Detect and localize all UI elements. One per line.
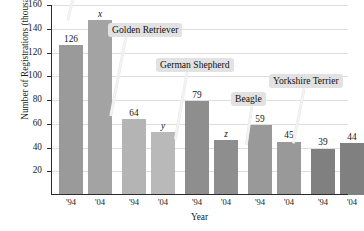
- bar-group3-04: z '04: [214, 140, 238, 195]
- y-axis-title: Number of Registrations (thousands): [20, 0, 30, 136]
- y-tick-60: 60: [47, 124, 51, 125]
- y-tick-20: 20: [47, 171, 51, 172]
- y-tick-label-20: 20: [33, 167, 42, 176]
- y-tick-80: 80: [47, 100, 51, 101]
- y-tick-40: 40: [47, 148, 51, 149]
- x-tick-label-6: '04: [221, 198, 231, 207]
- leader-line-yorkshire-terrier: [293, 89, 306, 143]
- callout-golden-retriever: Golden Retriever: [108, 23, 182, 37]
- x-tick-label-4: '04: [158, 198, 168, 207]
- bar-group1-94: 126 '94: [59, 45, 83, 195]
- x-tick-label-2: '04: [95, 198, 105, 207]
- leader-line-labrador: [67, 0, 77, 20]
- y-tick-140: 140: [47, 29, 51, 30]
- x-tick-label-1: '94: [66, 198, 76, 207]
- bar-value-39: 39: [318, 138, 327, 147]
- callout-german-shepherd: German Shepherd: [156, 58, 234, 72]
- x-axis-line: [51, 194, 348, 195]
- bar-value-64: 64: [129, 109, 138, 118]
- bar-value-x: x: [98, 10, 102, 19]
- bar-value-z: z: [224, 130, 228, 139]
- x-tick-label-3: '94: [129, 198, 139, 207]
- gridline-160: [51, 5, 348, 6]
- bar-group1-04: x '04: [88, 20, 112, 195]
- bar-value-59: 59: [255, 115, 264, 124]
- y-tick-label-100: 100: [28, 72, 42, 81]
- y-tick-label-40: 40: [33, 143, 42, 152]
- x-tick-label-5: '94: [192, 198, 202, 207]
- y-tick-label-120: 120: [28, 48, 42, 57]
- x-tick-label-8: '04: [284, 198, 294, 207]
- x-tick-label-7: '94: [255, 198, 265, 207]
- callout-yorkshire-terrier: Yorkshire Terrier: [269, 74, 343, 88]
- x-tick-label-10: '04: [347, 198, 357, 207]
- bar-group3-94: 79 '94: [185, 101, 209, 195]
- bar-group4-04: 45 '04: [277, 142, 301, 195]
- bar-group5-94: 39 '94: [311, 149, 335, 195]
- y-tick-label-160: 160: [28, 0, 42, 9]
- y-tick-label-60: 60: [33, 119, 42, 128]
- bar-value-44: 44: [347, 133, 356, 142]
- bar-group4-94: 59 '94: [248, 125, 272, 195]
- callout-beagle: Beagle: [231, 92, 266, 106]
- y-tick-120: 120: [47, 53, 51, 54]
- bar-value-79: 79: [192, 91, 201, 100]
- y-axis-line: [51, 5, 52, 195]
- x-axis-title: Year: [51, 212, 348, 222]
- bar-group2-04: y '04: [151, 132, 175, 195]
- bar-value-y: y: [161, 122, 165, 131]
- plot-area: 160 140 120 100 80 60 40 20 126: [51, 5, 348, 195]
- y-tick-160: 160: [47, 5, 51, 6]
- y-tick-label-80: 80: [33, 95, 42, 104]
- bar-value-126: 126: [64, 35, 78, 44]
- y-tick-100: 100: [47, 76, 51, 77]
- x-tick-label-9: '94: [318, 198, 328, 207]
- y-tick-label-140: 140: [28, 24, 42, 33]
- bar-group5-04: 44 '04: [340, 143, 364, 195]
- bar-group2-94: 64 '94: [122, 119, 146, 195]
